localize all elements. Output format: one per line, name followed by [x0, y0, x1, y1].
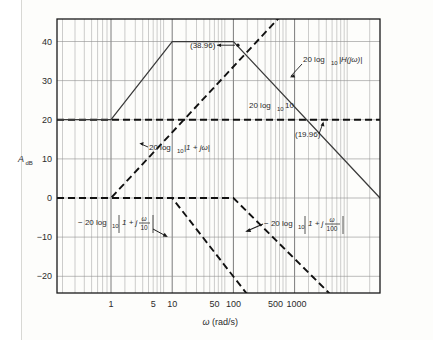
annotation-38-96: (38.96): [190, 41, 240, 50]
label-pole-100: − 20 log 10 1 + j ω 100: [245, 216, 343, 234]
label-flat-sub: 10: [277, 106, 284, 112]
label-flat-lead: 20 log: [249, 101, 271, 110]
y-tick-0: 0: [47, 193, 52, 203]
y-axis-title: A dB: [17, 154, 33, 166]
y-tick-40: 40: [42, 37, 52, 47]
x-axis-title: ω (rad/s): [202, 317, 238, 327]
x-tick-100: 100: [226, 299, 241, 309]
label-pole10-lead: − 20 log: [78, 218, 107, 227]
x-tick-10: 10: [167, 299, 177, 309]
label-pole10-den: 10: [140, 224, 148, 231]
label-flat-20db: 20 log 10 10: [249, 101, 294, 112]
label-pole100-den: 100: [327, 225, 338, 232]
label-h-sub: 10: [331, 60, 338, 66]
x-tick-1000: 1000: [286, 299, 306, 309]
label-flat-expr: 10: [285, 101, 294, 110]
x-tick-labels: 1 5 10 50 100 500 1000: [108, 299, 306, 309]
y-tick-m20: −20: [37, 271, 52, 281]
x-tick-50: 50: [209, 299, 219, 309]
x-tick-5: 5: [151, 299, 156, 309]
label-zero-1: 20 log 10 |1 + jω|: [139, 142, 209, 153]
y-tick-30: 30: [42, 76, 52, 86]
label-pole10-num: ω: [141, 215, 146, 222]
y-axis-title-sub: dB: [26, 160, 33, 166]
bode-plot-figure: 40 30 20 10 0 −10 −20 A dB 1 5 10 50 100…: [0, 0, 433, 340]
label-zero-lead: 20 log: [149, 143, 171, 152]
series-pole-100: [57, 198, 330, 294]
x-tick-1: 1: [108, 299, 113, 309]
label-pole100-sub: 10: [298, 224, 305, 230]
label-h-magnitude: 20 log 10 |H(jω)|: [290, 55, 362, 78]
data-point-38-96: [236, 44, 239, 47]
x-axis-symbol: ω: [202, 317, 209, 327]
annotation-38-96-label: (38.96): [190, 41, 216, 50]
annotation-19-96: (19.96): [295, 122, 324, 140]
y-axis-title-main: A: [17, 154, 24, 164]
series-zero-1: [57, 0, 296, 198]
bode-plot-svg: 40 30 20 10 0 −10 −20 A dB 1 5 10 50 100…: [0, 0, 433, 340]
label-pole100-expr: 1 + j: [308, 219, 324, 228]
label-h-expr: |H(jω)|: [339, 55, 362, 64]
y-tick-m10: −10: [37, 232, 52, 242]
y-tick-20: 20: [42, 115, 52, 125]
x-tick-500: 500: [268, 299, 283, 309]
y-tick-10: 10: [42, 154, 52, 164]
annotation-19-96-label: (19.96): [295, 130, 321, 139]
label-pole10-sub: 10: [112, 223, 119, 229]
label-pole10-expr: 1 + j: [122, 218, 138, 227]
label-h-lead: 20 log: [303, 55, 325, 64]
series-pole-10: [57, 198, 254, 303]
label-pole100-lead: − 20 log: [264, 219, 293, 228]
x-axis-units: (rad/s): [212, 317, 238, 327]
label-zero-expr: |1 + jω|: [184, 143, 210, 152]
y-tick-labels: 40 30 20 10 0 −10 −20: [37, 37, 52, 282]
label-pole100-num: ω: [329, 216, 334, 223]
x-grid-major: [111, 19, 295, 293]
